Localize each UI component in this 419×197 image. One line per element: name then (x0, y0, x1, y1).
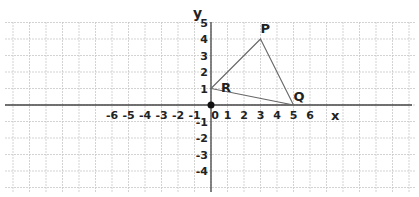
origin-dot (208, 102, 215, 109)
point-label-p: P (261, 21, 271, 36)
x-tick-label: 3 (257, 109, 265, 122)
x-tick-label: -4 (139, 109, 152, 122)
x-tick-label: 0 (211, 109, 219, 122)
coordinate-plane: -6-5-4-3-2-1012345654321-1-2-3-4 x y PQR (0, 0, 419, 197)
y-tick-label: -2 (196, 132, 208, 145)
y-axis-label: y (193, 5, 202, 21)
point-labels: PQR (221, 21, 305, 104)
tick-labels: -6-5-4-3-2-1012345654321-1-2-3-4 (106, 17, 314, 179)
x-tick-label: 6 (306, 109, 314, 122)
x-tick-label: 5 (290, 109, 298, 122)
x-tick-label: 4 (273, 109, 281, 122)
point-label-q: Q (294, 89, 305, 104)
y-tick-label: 4 (200, 33, 208, 46)
y-tick-label: -4 (196, 165, 209, 178)
x-tick-label: -6 (106, 109, 119, 122)
point-label-r: R (221, 80, 231, 95)
x-tick-label: -5 (122, 109, 134, 122)
y-tick-label: 1 (200, 83, 208, 96)
x-axis-label: x (331, 108, 340, 123)
y-tick-label: -1 (196, 116, 208, 129)
y-tick-label: 2 (200, 66, 208, 79)
x-tick-label: 2 (240, 109, 248, 122)
x-tick-label: -3 (155, 109, 167, 122)
y-tick-label: 3 (200, 50, 208, 63)
x-tick-label: -2 (172, 109, 184, 122)
x-tick-label: 1 (224, 109, 232, 122)
y-tick-label: -3 (196, 149, 208, 162)
